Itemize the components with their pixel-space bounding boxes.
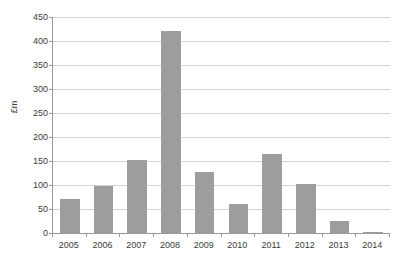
bar-slot bbox=[188, 17, 222, 233]
x-axis-tick-mark bbox=[221, 233, 222, 237]
x-axis-tick-label: 2009 bbox=[187, 239, 221, 253]
y-axis-tick-label: 450 bbox=[18, 12, 48, 22]
bar-slot bbox=[53, 17, 87, 233]
x-axis-tick-label: 2006 bbox=[86, 239, 120, 253]
x-axis-tick-mark bbox=[288, 233, 289, 237]
bar-2012 bbox=[296, 184, 316, 233]
x-axis-tick-label: 2011 bbox=[254, 239, 288, 253]
x-axis-tick-mark bbox=[119, 233, 120, 237]
bar-2008 bbox=[161, 31, 181, 233]
bar-slot bbox=[323, 17, 357, 233]
bar-slot bbox=[222, 17, 256, 233]
bar-slot bbox=[289, 17, 323, 233]
x-axis-tick-label: 2010 bbox=[221, 239, 255, 253]
y-axis-tick-label: 250 bbox=[18, 108, 48, 118]
x-axis-tick-label: 2012 bbox=[288, 239, 322, 253]
bar-2011 bbox=[262, 154, 282, 233]
x-axis-tick-label: 2007 bbox=[119, 239, 153, 253]
y-axis-tick-label: 350 bbox=[18, 60, 48, 70]
bars-layer bbox=[53, 17, 390, 233]
bar-2010 bbox=[229, 204, 249, 233]
x-axis-tick-labels: 2005200620072008200920102011201220132014 bbox=[52, 239, 389, 253]
x-axis-tick-marks bbox=[52, 233, 389, 237]
y-axis-tick-label: 50 bbox=[18, 204, 48, 214]
x-axis-tick-label: 2008 bbox=[153, 239, 187, 253]
x-axis-tick-label: 2013 bbox=[322, 239, 356, 253]
x-axis-tick-mark bbox=[52, 233, 53, 237]
x-axis-tick-mark bbox=[153, 233, 154, 237]
x-axis-tick-mark bbox=[355, 233, 356, 237]
x-axis-tick-mark bbox=[254, 233, 255, 237]
bar-slot bbox=[255, 17, 289, 233]
bar-2009 bbox=[195, 172, 215, 233]
x-axis-tick-mark bbox=[322, 233, 323, 237]
bar-chart: £m 050100150200250300350400450 200520062… bbox=[0, 0, 397, 261]
x-axis-tick-label: 2005 bbox=[52, 239, 86, 253]
x-axis-tick-label: 2014 bbox=[355, 239, 389, 253]
bar-slot bbox=[154, 17, 188, 233]
bar-2013 bbox=[330, 221, 350, 233]
x-axis-tick-mark bbox=[389, 233, 390, 237]
bar-slot bbox=[120, 17, 154, 233]
bar-slot bbox=[87, 17, 121, 233]
y-axis-tick-label: 150 bbox=[18, 156, 48, 166]
y-axis-tick-label: 200 bbox=[18, 132, 48, 142]
bar-2005 bbox=[60, 199, 80, 233]
bar-slot bbox=[356, 17, 390, 233]
y-axis-tick-label: 400 bbox=[18, 36, 48, 46]
x-axis-tick-mark bbox=[86, 233, 87, 237]
y-axis-tick-label: 0 bbox=[18, 228, 48, 238]
x-axis-tick-mark bbox=[187, 233, 188, 237]
y-axis-tick-label: 100 bbox=[18, 180, 48, 190]
y-axis-tick-label: 300 bbox=[18, 84, 48, 94]
y-axis-tick-labels: 050100150200250300350400450 bbox=[18, 11, 51, 235]
bar-2006 bbox=[94, 186, 114, 233]
plot-area bbox=[52, 17, 390, 234]
bar-2007 bbox=[127, 160, 147, 233]
